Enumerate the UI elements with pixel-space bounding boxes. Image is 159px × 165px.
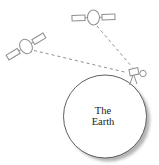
satellite-top-icon (72, 9, 115, 25)
signal-line-top-satellite (97, 26, 133, 68)
gps-diagram-canvas: The Earth (0, 0, 159, 165)
receiver-box (129, 68, 139, 76)
receiver-tripod-leg-right (134, 76, 137, 85)
receiver-tripod-leg-left (130, 76, 134, 86)
receiver-dish (140, 70, 146, 76)
earth-label-line2: Earth (92, 116, 115, 127)
signal-line-left-satellite (34, 51, 127, 73)
satellite-left-icon (4, 29, 49, 64)
gps-diagram: The Earth (0, 0, 159, 165)
earth-label-line1: The (95, 105, 112, 116)
signal-lines (34, 26, 133, 73)
gps-receiver-icon (129, 68, 146, 85)
